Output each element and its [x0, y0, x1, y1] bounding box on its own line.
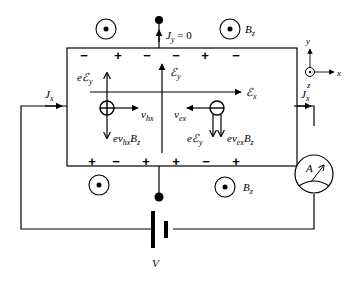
ammeter-label: A — [305, 162, 313, 174]
svg-text:+: + — [172, 154, 180, 169]
hole-velocity-label: vhx — [141, 108, 154, 123]
left-circuit-wire — [21, 106, 153, 229]
axis-z-label: z — [306, 80, 311, 90]
right-circuit-wire-top — [297, 106, 314, 126]
hole-electric-force-label: eℰy — [77, 71, 93, 86]
bz-label-top: Bz — [245, 23, 256, 38]
ex-field-label: ℰx — [246, 86, 257, 101]
svg-text:+: + — [114, 48, 122, 63]
electron-magnetic-force-label: evexBz — [227, 132, 255, 147]
svg-text:+: + — [142, 154, 150, 169]
hole-magnetic-force-label: evhxBz — [113, 132, 141, 147]
bz-label-bottom: Bz — [243, 181, 254, 196]
bz-out-of-page-icon-top-right — [220, 19, 240, 39]
bottom-contact-dot — [155, 193, 164, 202]
right-circuit-wire-bottom — [173, 194, 314, 229]
coordinate-axes — [306, 49, 335, 77]
jx-left-label: Jx — [45, 88, 54, 103]
svg-text:+: + — [201, 48, 209, 63]
electron-electric-force-label: eℰy — [187, 132, 203, 147]
hole-carrier — [100, 101, 114, 115]
voltage-label: V — [152, 257, 160, 269]
jx-right-label: Jx — [301, 88, 310, 103]
bz-out-of-page-icon-bottom-right — [215, 177, 235, 197]
svg-text:−: − — [80, 48, 88, 63]
svg-text:−: − — [112, 154, 120, 169]
axis-x-label: x — [336, 68, 341, 78]
electron-carrier — [210, 101, 224, 115]
hall-effect-diagram: Jy = 0 Bz Bz − + − − + − + − + + − + ℰy … — [0, 0, 353, 281]
bz-out-of-page-icon-top-left — [96, 19, 116, 39]
svg-text:−: − — [143, 48, 151, 63]
battery-icon — [151, 211, 168, 248]
axis-y-label: y — [305, 36, 310, 46]
top-contact-dot — [155, 16, 163, 24]
jy-label: Jy = 0 — [166, 29, 192, 44]
svg-text:−: − — [172, 48, 180, 63]
electron-velocity-label: vex — [174, 108, 186, 123]
svg-text:+: + — [232, 154, 240, 169]
svg-text:−: − — [232, 48, 240, 63]
bottom-surface-charges: + − + + − + — [88, 154, 240, 169]
ammeter-icon — [295, 155, 333, 193]
top-surface-charges: − + − − + − — [80, 48, 240, 63]
svg-text:−: − — [202, 154, 210, 169]
bz-out-of-page-icon-bottom-left — [89, 175, 109, 195]
ey-field-label: ℰy — [170, 66, 181, 81]
svg-text:+: + — [88, 154, 96, 169]
